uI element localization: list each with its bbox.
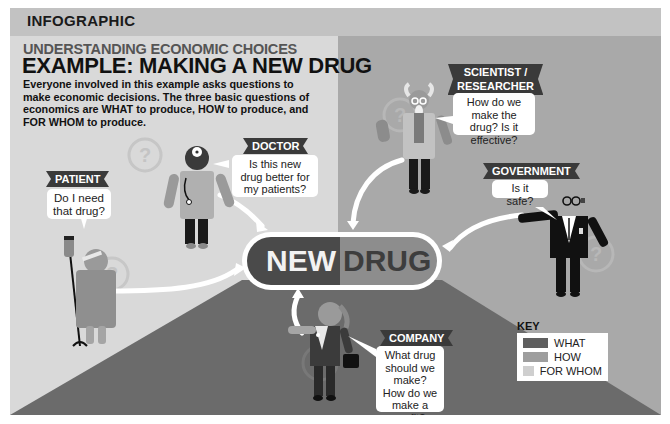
legend: KEY WHAT HOW FOR WHOM: [517, 320, 608, 381]
scientist-tag-line1: SCIENTIST /: [457, 65, 534, 79]
company-tag: COMPANY: [380, 330, 453, 346]
government-question: Is it safe?: [492, 180, 548, 198]
header-bar: INFOGRAPHIC: [10, 8, 661, 36]
legend-item-what: WHAT: [523, 336, 602, 350]
legend-label: FOR WHOM: [540, 365, 602, 377]
new-drug-pill: NEW DRUG: [242, 232, 442, 290]
what-swatch: [523, 338, 548, 348]
scientist-question: How do we make the drug? Is it effective…: [453, 93, 535, 135]
company-question: What drug should we make? How do we make…: [376, 346, 444, 412]
svg-text:?: ?: [590, 243, 602, 265]
for-whom-swatch: [523, 366, 534, 376]
patient-figure: [64, 236, 116, 346]
patient-question: Do I need that drug?: [47, 189, 111, 219]
patient-tag: PATIENT: [46, 171, 109, 187]
scientist-tag: SCIENTIST / RESEARCHER: [448, 64, 543, 95]
header-label: INFOGRAPHIC: [27, 12, 135, 29]
doctor-tag: DOCTOR: [243, 138, 308, 154]
infographic-panel: ? ? ? ?: [10, 8, 661, 415]
scientist-tag-line2: RESEARCHER: [457, 79, 534, 93]
page-title: EXAMPLE: MAKING A NEW DRUG: [22, 53, 372, 79]
new-word: NEW: [247, 237, 340, 285]
legend-label: HOW: [554, 351, 581, 363]
how-swatch: [523, 352, 548, 362]
intro-text: Everyone involved in this example asks q…: [23, 78, 323, 128]
legend-title: KEY: [517, 320, 608, 332]
doctor-question: Is this new drug better for my patients?: [232, 155, 318, 197]
legend-label: WHAT: [554, 337, 586, 349]
government-tag: GOVERNMENT: [483, 163, 580, 179]
svg-text:?: ?: [139, 144, 151, 166]
legend-item-for-whom: FOR WHOM: [523, 364, 602, 378]
legend-item-how: HOW: [523, 350, 602, 364]
drug-word: DRUG: [340, 237, 437, 285]
